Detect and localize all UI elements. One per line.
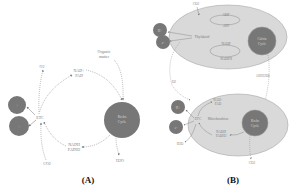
calvin-label-1: Calvin [257, 37, 266, 41]
atp-circle-2-label: + [18, 125, 20, 129]
arrow-etc-to-nad [39, 75, 72, 114]
mito-h2o-label: H2O [177, 142, 184, 146]
mito-krebs-label-2: Cycle [251, 124, 259, 128]
mito-krebs-label-1: Krebs [251, 119, 260, 123]
arrow-co2-to-etc [41, 123, 46, 160]
panel-a: Krebs Cycle + + ETC O2 NAD+ FAD Organic … [8, 49, 140, 185]
krebs-label-2: Cycle [118, 120, 127, 124]
mito-co2-label: CO2 [249, 161, 256, 165]
arrow-organic-to-krebs [114, 60, 123, 100]
o2-label: O2 [40, 64, 45, 69]
chloroplast-circle-1-label: H+ [158, 29, 162, 33]
o2-out-label: O2 [172, 80, 176, 84]
thylakoid-label: Thylakoid [195, 35, 210, 39]
fad-label: FAD [75, 73, 83, 78]
organic-label-2: matter [99, 54, 110, 59]
chloroplast-co2-label: CO2 [193, 2, 200, 6]
arrow-etc-to-circle-2 [29, 120, 36, 126]
co2-label: CO2 [43, 161, 51, 166]
arrow-krebs-to-h2o [116, 138, 119, 155]
sugar-label: C6H12O6 [256, 74, 270, 78]
atp-label: ATP [223, 24, 229, 28]
calvin-label-2: Cycle [258, 42, 266, 46]
panel-b-caption: (B) [227, 175, 239, 185]
arrow-etc-to-circle-1 [27, 107, 35, 115]
arrow-nad-to-krebs [86, 70, 122, 100]
mito-etc-label: ETC [195, 117, 202, 121]
arrow-krebs-to-nadh [82, 135, 110, 147]
mito-circle-2-label: e- [175, 126, 178, 130]
mitochondrion [188, 94, 288, 156]
etc-label: ETC [36, 115, 44, 120]
krebs-label-1: Krebs [118, 115, 127, 119]
mito-fad-label: FAD [215, 102, 222, 106]
nadp-label: NADP [221, 42, 230, 46]
mito-circle-1-label: H+ [176, 106, 180, 110]
atp-circle-1-label: + [16, 104, 18, 108]
arrow-etc-to-o2 [39, 70, 43, 112]
mitochondrion-label: Mitochondrion [208, 117, 229, 121]
panel-a-caption: (A) [82, 175, 95, 185]
arrow-nadh-to-etc [44, 122, 66, 146]
mito-fadh-label: FADH2 [216, 134, 227, 138]
h2o-label: H2O [116, 158, 124, 163]
adp-label: ADP [223, 13, 230, 17]
panel-b: Calvin Cycle ADP ATP NADP NADPH Thylakoi… [153, 2, 288, 185]
nadph-label: NADPH [220, 57, 232, 61]
diagram-canvas: Krebs Cycle + + ETC O2 NAD+ FAD Organic … [0, 0, 289, 190]
fadh-label: FADH2 [68, 147, 81, 152]
chloroplast-circle-2-label: e- [162, 41, 165, 45]
